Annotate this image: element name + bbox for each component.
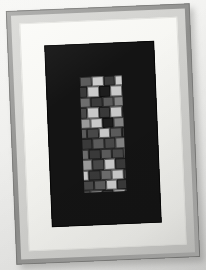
mosaic-tile	[80, 118, 91, 129]
mosaic-tile	[87, 107, 99, 118]
mosaic-tile	[112, 169, 124, 180]
mosaic-tile	[90, 118, 102, 129]
mosaic-tile	[98, 128, 110, 139]
mosaic-tile	[94, 180, 106, 191]
mosaic-tile	[122, 106, 126, 117]
mosaic-tile	[125, 116, 126, 127]
mosaic-tile	[115, 75, 126, 86]
mosaic-tile	[115, 158, 126, 169]
mosaic-tile	[102, 96, 114, 107]
mosaic-tile	[80, 149, 89, 160]
mosaic-tile	[100, 169, 112, 180]
mosaic-tile	[122, 127, 126, 138]
mosaic-tile	[90, 190, 102, 192]
mosaic-tile	[117, 179, 126, 190]
mosaic-tile	[126, 95, 127, 106]
mat-board	[19, 17, 186, 251]
photo-scene	[0, 0, 206, 270]
mosaic-tile	[88, 170, 100, 181]
mosaic-tile-grid[interactable]	[80, 75, 127, 193]
mosaic-tile	[106, 179, 118, 190]
mosaic-tile	[114, 117, 126, 128]
mosaic-tile	[124, 168, 127, 179]
artwork-inner-border	[44, 41, 162, 227]
mosaic-tile	[92, 138, 104, 149]
mosaic-tile	[80, 97, 91, 108]
mosaic-tile	[110, 86, 122, 97]
mosaic-tile	[80, 76, 92, 87]
mosaic-tile	[80, 170, 89, 181]
mosaic-tile	[124, 147, 127, 158]
mosaic-tile	[116, 137, 127, 148]
mosaic-tile	[87, 128, 99, 139]
frame-inner-lip	[11, 8, 195, 259]
mosaic-tile	[104, 159, 116, 170]
mosaic-tile	[100, 148, 112, 159]
mosaic-tile	[114, 189, 126, 192]
framed-picture[interactable]	[6, 3, 200, 264]
mosaic-tile	[102, 190, 114, 193]
mosaic-tile	[80, 191, 91, 193]
mosaic-tile	[91, 76, 103, 87]
mosaic-tile	[98, 107, 110, 118]
mosaic-tile	[92, 159, 104, 170]
mosaic-tile	[80, 160, 92, 171]
mosaic-tile	[102, 117, 114, 128]
mosaic-tile	[122, 85, 126, 96]
mosaic-tile	[80, 139, 92, 150]
mosaic-tile	[82, 180, 94, 191]
mosaic-tile	[110, 127, 122, 138]
mosaic-tile	[88, 149, 100, 160]
mosaic-tile	[112, 148, 124, 159]
frame-outer-moulding	[6, 3, 200, 264]
mosaic-tile	[87, 87, 99, 98]
mosaic-tile	[110, 106, 122, 117]
mosaic-tile	[126, 189, 127, 193]
mosaic-tile	[99, 86, 111, 97]
mosaic-tile	[114, 96, 126, 107]
mosaic-tile	[90, 97, 102, 108]
mosaic-tile	[104, 138, 116, 149]
mosaic-tile	[103, 75, 115, 86]
